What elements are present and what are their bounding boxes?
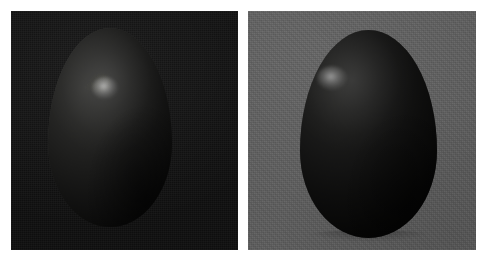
- left-panel: [11, 11, 238, 250]
- right-panel: [248, 11, 476, 250]
- figure-canvas: [0, 0, 487, 261]
